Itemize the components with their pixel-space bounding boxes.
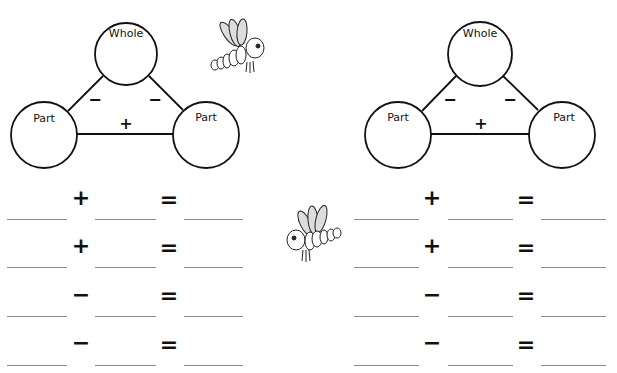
minus-sign: − [443, 90, 456, 109]
plus-sign: + [119, 114, 132, 133]
answer-blank[interactable] [7, 316, 67, 317]
minus-sign: − [148, 90, 161, 109]
operator-sign: − [71, 284, 91, 306]
plus-sign: + [474, 114, 487, 133]
answer-blank[interactable] [95, 316, 156, 317]
equals-sign: = [159, 237, 179, 259]
answer-blank[interactable] [95, 267, 156, 268]
answer-blank[interactable] [7, 219, 67, 220]
answer-blank[interactable] [354, 316, 419, 317]
minus-sign: − [503, 90, 516, 109]
answer-blank[interactable] [184, 267, 243, 268]
answer-blank[interactable] [354, 365, 419, 366]
part-label: Part [387, 111, 409, 124]
operator-sign: + [71, 235, 91, 257]
answer-blank[interactable] [448, 219, 513, 220]
answer-blank[interactable] [448, 267, 513, 268]
equals-sign: = [516, 334, 536, 356]
answer-blank[interactable] [184, 316, 243, 317]
answer-blank[interactable] [541, 267, 606, 268]
equals-sign: = [516, 237, 536, 259]
operator-sign: − [422, 284, 442, 306]
equals-sign: = [516, 285, 536, 307]
operator-sign: − [71, 332, 91, 354]
dragonfly-icon [287, 204, 341, 262]
answer-blank[interactable] [448, 316, 513, 317]
operator-sign: + [422, 187, 442, 209]
answer-blank[interactable] [354, 267, 419, 268]
operator-sign: + [422, 235, 442, 257]
operator-sign: + [71, 187, 91, 209]
part-label: Part [195, 111, 217, 124]
answer-blank[interactable] [7, 267, 67, 268]
equals-sign: = [159, 334, 179, 356]
answer-blank[interactable] [95, 219, 156, 220]
operator-sign: − [422, 332, 442, 354]
answer-blank[interactable] [7, 365, 67, 366]
answer-blank[interactable] [354, 219, 419, 220]
answer-blank[interactable] [541, 219, 606, 220]
answer-blank[interactable] [95, 365, 156, 366]
answer-blank[interactable] [541, 365, 606, 366]
part-whole-diagram-right [365, 22, 595, 168]
part-label: Part [33, 112, 55, 125]
dragonfly-icon [211, 18, 264, 73]
part-label: Part [553, 111, 575, 124]
answer-blank[interactable] [184, 219, 243, 220]
answer-blank[interactable] [448, 365, 513, 366]
equals-sign: = [159, 285, 179, 307]
whole-label: Whole [109, 27, 144, 40]
part-whole-diagram-left [11, 23, 239, 168]
answer-blank[interactable] [184, 365, 243, 366]
whole-label: Whole [463, 27, 498, 40]
answer-blank[interactable] [541, 316, 606, 317]
equals-sign: = [159, 189, 179, 211]
minus-sign: − [88, 90, 101, 109]
equals-sign: = [516, 189, 536, 211]
